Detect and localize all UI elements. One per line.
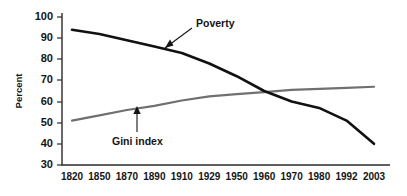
y-tick-label: 90 [41, 31, 53, 43]
chart-container: 100 90 80 70 60 50 40 30 Percent 1820185… [0, 0, 407, 196]
y-tick-label: 80 [41, 52, 53, 64]
series-line-poverty [72, 30, 374, 144]
gini-annotation-label: Gini index [112, 135, 163, 147]
x-tick-label: 1910 [171, 171, 194, 182]
x-tick-label: 1960 [253, 171, 276, 182]
x-tick-label: 1970 [281, 171, 304, 182]
annotation-poverty: Poverty [165, 17, 235, 48]
y-tick-label: 30 [41, 158, 53, 170]
y-tick-label: 50 [41, 116, 53, 128]
x-axis-labels: 1820185018701890191019291950196019701980… [61, 171, 386, 182]
series-line-gini-index [72, 87, 374, 121]
x-tick-label: 1870 [116, 171, 139, 182]
x-tick-label: 2003 [363, 171, 386, 182]
series-group [72, 30, 374, 144]
poverty-annotation-label: Poverty [196, 17, 235, 29]
y-axis-title: Percent [13, 73, 24, 109]
x-tick-label: 1850 [88, 171, 111, 182]
y-tick-label: 60 [41, 95, 53, 107]
x-tick-label: 1950 [226, 171, 249, 182]
y-tick-label: 40 [41, 137, 53, 149]
poverty-arrowhead-icon [165, 40, 174, 49]
y-tick-label: 70 [41, 73, 53, 85]
y-tick-marks [57, 17, 62, 165]
x-tick-label: 1992 [335, 171, 358, 182]
x-tick-label: 1890 [143, 171, 166, 182]
y-axis-labels: 100 90 80 70 60 50 40 30 [35, 10, 53, 170]
x-tick-label: 1820 [61, 171, 84, 182]
x-tick-label: 1929 [198, 171, 221, 182]
y-tick-label: 100 [35, 10, 53, 22]
line-chart: 100 90 80 70 60 50 40 30 Percent 1820185… [0, 0, 407, 196]
x-tick-label: 1980 [308, 171, 331, 182]
